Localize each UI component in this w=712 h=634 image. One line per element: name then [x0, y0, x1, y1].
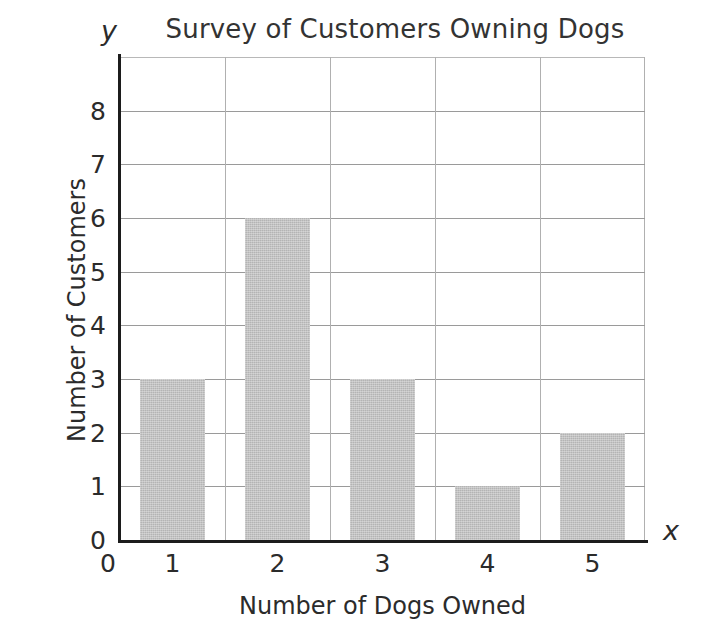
- x-tick-label: 2: [248, 551, 308, 576]
- y-axis-line: [118, 54, 121, 543]
- gridline-vertical: [225, 57, 226, 540]
- plot-border-right: [644, 57, 645, 540]
- x-axis-line: [118, 540, 648, 543]
- plot-area: [120, 57, 645, 540]
- chart-figure: Survey of Customers Owning Dogs y x 0123…: [0, 0, 712, 634]
- x-tick-label: 5: [563, 551, 623, 576]
- gridline-horizontal: [120, 164, 645, 165]
- x-tick-label: 4: [458, 551, 518, 576]
- gridline-vertical: [435, 57, 436, 540]
- bar: [350, 379, 416, 540]
- x-tick-label: 3: [353, 551, 413, 576]
- bar: [455, 486, 521, 540]
- gridline-horizontal: [120, 111, 645, 112]
- chart-title: Survey of Customers Owning Dogs: [150, 14, 640, 44]
- x-axis-title: Number of Dogs Owned: [120, 592, 645, 620]
- bar: [560, 433, 626, 540]
- gridline-horizontal: [120, 272, 645, 273]
- x-tick-label: 0: [78, 551, 138, 576]
- bar: [245, 218, 311, 540]
- gridline-horizontal: [120, 325, 645, 326]
- y-axis-title: Number of Customers: [63, 100, 91, 520]
- x-tick-label: 1: [143, 551, 203, 576]
- plot-border-top: [120, 57, 645, 58]
- x-axis-letter: x: [663, 515, 679, 546]
- gridline-horizontal: [120, 218, 645, 219]
- y-axis-letter: y: [101, 15, 117, 46]
- gridline-vertical: [540, 57, 541, 540]
- bar: [140, 379, 206, 540]
- gridline-vertical: [330, 57, 331, 540]
